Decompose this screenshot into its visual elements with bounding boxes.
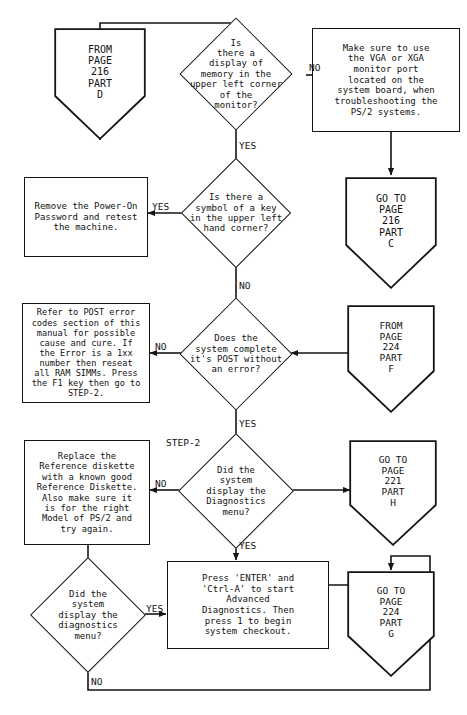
decision-memory-display: Is there a display of memory in the uppe… (166, 30, 306, 118)
connector-label: GO TO PAGE 216 PART C (345, 193, 437, 273)
connector-from-page-224-part-f: FROM PAGE 224 PART F (347, 305, 435, 413)
edge-label-memory-no: NO (309, 62, 320, 73)
edge-label-diag-lower-no: NO (91, 676, 102, 687)
annotation-step-2: STEP-2 (166, 437, 200, 448)
edge-label-key-no: NO (239, 280, 250, 291)
process-vga-xga-note: Make sure to use the VGA or XGA monitor … (312, 28, 460, 132)
process-remove-power-on-password: Remove the Power-On Password and retest … (24, 177, 148, 257)
edge-label-memory-yes: YES (239, 140, 256, 151)
decision-label: Did the system display the diagnostics m… (18, 589, 158, 641)
connector-goto-page-224-part-g: GO TO PAGE 224 PART G (347, 571, 435, 677)
decision-label: Is there a symbol of a key in the upper … (166, 192, 306, 233)
edge-label-diag-upper-no: NO (155, 478, 166, 489)
decision-label: Did the system display the Diagnostics m… (166, 465, 306, 517)
connector-label: FROM PAGE 216 PART D (54, 44, 146, 124)
process-press-enter-ctrl-a: Press 'ENTER' and 'Ctrl-A' to start Adva… (167, 561, 329, 649)
process-text: Remove the Power-On Password and retest … (35, 201, 138, 233)
decision-diagnostics-menu-upper: Did the system display the Diagnostics m… (166, 446, 306, 536)
edge-label-diag-upper-yes: YES (239, 540, 256, 551)
edge-label-post-yes: YES (239, 418, 256, 429)
process-text: Make sure to use the VGA or XGA monitor … (335, 43, 438, 117)
connector-label: FROM PAGE 224 PART F (347, 321, 435, 397)
connector-goto-page-216-part-c: GO TO PAGE 216 PART C (345, 177, 437, 289)
connector-label: GO TO PAGE 224 PART G (347, 586, 435, 662)
decision-post-complete: Does the system complete it's POST witho… (166, 310, 306, 398)
decision-label: Does the system complete it's POST witho… (166, 333, 306, 374)
process-replace-reference-diskette: Replace the Reference diskette with a kn… (24, 440, 150, 545)
decision-diagnostics-menu-lower: Did the system display the diagnostics m… (18, 570, 158, 660)
edge-label-post-no: NO (155, 341, 166, 352)
connector-from-page-216-part-d: FROM PAGE 216 PART D (54, 28, 146, 140)
connector-label: GO TO PAGE 221 PART H (349, 455, 437, 531)
decision-label: Is there a display of memory in the uppe… (166, 38, 306, 110)
process-text: Press 'ENTER' and 'Ctrl-A' to start Adva… (202, 573, 294, 637)
process-text: Replace the Reference diskette with a kn… (37, 451, 138, 534)
process-text: Refer to POST error codes section of thi… (32, 307, 141, 398)
connector-goto-page-221-part-h: GO TO PAGE 221 PART H (349, 440, 437, 546)
process-post-error-codes: Refer to POST error codes section of thi… (22, 303, 150, 403)
decision-key-symbol: Is there a symbol of a key in the upper … (166, 170, 306, 256)
flowchart-page: FROM PAGE 216 PART D Is there a display … (0, 0, 467, 715)
